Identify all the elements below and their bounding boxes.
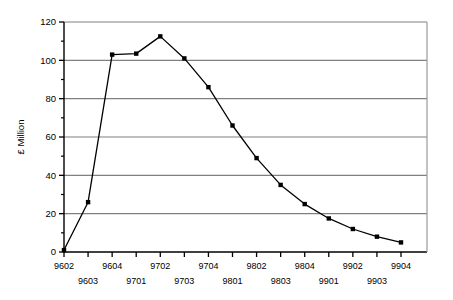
x-tick-label: 9903 [367, 276, 387, 286]
data-point [303, 202, 307, 206]
data-point [230, 123, 234, 127]
y-tick-label: 80 [45, 93, 56, 104]
y-tick-label: 60 [45, 131, 56, 142]
x-tick-label: 9701 [126, 276, 146, 286]
x-tick-label: 9802 [247, 261, 267, 271]
data-point [254, 156, 258, 160]
data-point [182, 56, 186, 60]
data-point [86, 200, 90, 204]
x-tick-label: 9902 [343, 261, 363, 271]
data-point [278, 183, 282, 187]
y-tick-label: 20 [45, 208, 56, 219]
y-tick-label: 40 [45, 170, 56, 181]
y-axis-title: £ Million [15, 120, 26, 155]
x-tick-label: 9901 [319, 276, 339, 286]
x-tick-label: 9702 [150, 261, 170, 271]
y-axis: 020406080100120 [40, 16, 64, 257]
x-tick-label: 9704 [198, 261, 218, 271]
x-tick-label: 9703 [174, 276, 194, 286]
data-point [134, 51, 138, 55]
x-tick-label: 9804 [295, 261, 315, 271]
x-axis: 9602960396049701970297039704980198029803… [54, 252, 411, 286]
x-tick-label: 9604 [102, 261, 122, 271]
series-markers [62, 34, 403, 252]
x-tick-label: 9603 [78, 276, 98, 286]
line-chart: 020406080100120£ Million9602960396049701… [0, 0, 453, 300]
y-tick-label: 0 [51, 246, 56, 257]
data-point [399, 240, 403, 244]
data-point [351, 227, 355, 231]
y-tick-label: 120 [40, 16, 56, 27]
data-point [158, 34, 162, 38]
data-point [62, 248, 66, 252]
series-line [64, 36, 401, 250]
data-point [375, 234, 379, 238]
x-tick-label: 9904 [391, 261, 411, 271]
y-gridlines [64, 22, 427, 214]
chart-container: 020406080100120£ Million9602960396049701… [0, 0, 453, 300]
y-tick-label: 100 [40, 55, 56, 66]
data-point [206, 85, 210, 89]
x-tick-label: 9602 [54, 261, 74, 271]
x-tick-label: 9801 [222, 276, 242, 286]
data-point [327, 216, 331, 220]
x-tick-label: 9803 [271, 276, 291, 286]
data-point [110, 52, 114, 56]
